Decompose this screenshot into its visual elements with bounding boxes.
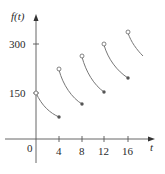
x-tick-label-12: 12 [98,145,109,157]
segment-5 [128,33,143,56]
y-tick-label-300: 300 [9,38,26,50]
open-point-icon [57,67,61,71]
x-tick-label-16: 16 [122,145,134,157]
segment-2 [59,70,82,104]
closed-point-icon [126,76,129,79]
curves [36,33,143,117]
points [34,30,130,119]
x-tick-label-8: 8 [79,145,85,157]
closed-point-icon [57,115,60,118]
open-point-icon [34,91,38,95]
segment-3 [82,57,104,92]
axes [5,14,155,163]
segment-4 [104,45,128,78]
open-point-icon [126,30,130,34]
closed-point-icon [80,102,83,105]
open-point-icon [80,54,84,58]
x-axis-label: t [150,141,154,153]
axis-labels: f(t) t 0 300 150 4 8 12 16 [9,10,154,157]
origin-label: 0 [27,142,33,154]
y-axis-arrow-icon [34,14,39,21]
x-tick-label-4: 4 [56,145,62,157]
closed-point-icon [102,90,105,93]
segment-1 [36,93,59,117]
y-axis-label: f(t) [11,10,25,23]
y-tick-label-150: 150 [9,87,26,99]
open-point-icon [102,42,106,46]
chart: f(t) t 0 300 150 4 8 12 16 [0,0,165,174]
